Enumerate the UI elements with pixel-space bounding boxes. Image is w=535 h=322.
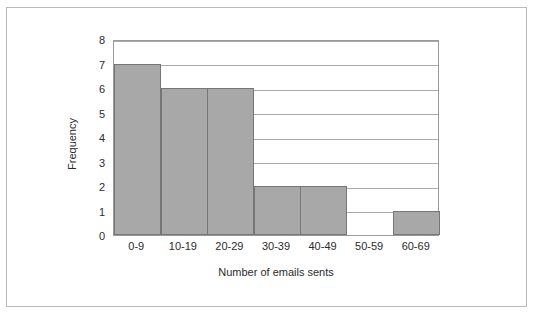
x-axis-tick-label: 40-49: [308, 240, 336, 253]
clipped-title-fragment: [0, 0, 535, 6]
x-axis-title: Number of emails sents: [113, 266, 439, 278]
y-axis-tick-label: 8: [83, 35, 105, 46]
bar: [254, 186, 301, 235]
x-axis-tick-label: 20-29: [215, 240, 243, 253]
y-axis-title: Frequency: [63, 104, 81, 184]
bar: [300, 186, 347, 235]
x-axis-tick-labels: 0-910-1920-2930-3940-4950-5960-69: [113, 240, 439, 256]
plot-area: [113, 40, 439, 236]
y-axis-tick-labels: 012345678: [83, 40, 105, 236]
x-axis-tick-label: 0-9: [128, 240, 144, 253]
y-axis-tick-label: 6: [83, 84, 105, 95]
bar: [161, 88, 208, 235]
y-axis-tick-label: 4: [83, 133, 105, 144]
bars-layer: [114, 41, 438, 235]
figure-frame: Frequency 012345678 0-910-1920-2930-3940…: [6, 7, 527, 307]
y-axis-tick-label: 7: [83, 59, 105, 70]
x-axis-tick-label: 50-59: [355, 240, 383, 253]
bar: [207, 88, 254, 235]
histogram-chart: Frequency 012345678 0-910-1920-2930-3940…: [7, 8, 528, 308]
x-axis-tick-label: 60-69: [402, 240, 430, 253]
y-axis-tick-label: 5: [83, 108, 105, 119]
bar: [114, 64, 161, 236]
bar: [393, 211, 440, 236]
y-axis-tick-label: 3: [83, 157, 105, 168]
x-axis-tick-label: 10-19: [169, 240, 197, 253]
y-axis-tick-label: 0: [83, 231, 105, 242]
x-axis-tick-label: 30-39: [262, 240, 290, 253]
y-axis-title-text: Frequency: [66, 118, 78, 170]
y-axis-tick-label: 1: [83, 206, 105, 217]
y-axis-tick-label: 2: [83, 182, 105, 193]
